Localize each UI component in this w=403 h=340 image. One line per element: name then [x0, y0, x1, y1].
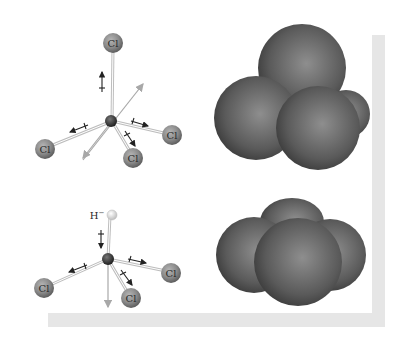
chcl3-carbon-atom: [102, 253, 114, 265]
ccl4-bonds: [48, 48, 168, 153]
cl-label: Cl: [39, 283, 50, 294]
cl-label: Cl: [167, 130, 178, 141]
chcl3-space-filling-model: [216, 198, 366, 306]
cl-label: Cl: [166, 268, 177, 279]
chcl3-ball-and-stick: H− Cl Cl Cl: [34, 209, 181, 308]
chcl3-hydrogen-atom: [107, 210, 117, 220]
ccl4-ball-and-stick: Cl Cl Cl Cl: [35, 33, 182, 168]
cl-label: Cl: [108, 38, 119, 49]
ccl4-space-filling-model: [214, 24, 370, 170]
h-label: H−: [90, 209, 105, 221]
cl-label: Cl: [126, 293, 137, 304]
molecular-polarity-figure: Cl Cl Cl Cl: [0, 0, 403, 340]
cl-label: Cl: [128, 153, 139, 164]
ccl4-carbon-atom: [105, 115, 117, 127]
cl-label: Cl: [40, 144, 51, 155]
molecule-diagram: Cl Cl Cl Cl: [0, 0, 403, 340]
